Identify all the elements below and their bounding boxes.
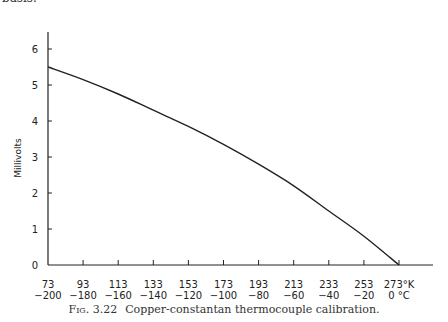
svg-text:0 °C: 0 °C xyxy=(388,290,410,300)
svg-text:133: 133 xyxy=(144,279,163,290)
svg-text:−180: −180 xyxy=(69,290,96,300)
svg-text:−60: −60 xyxy=(283,290,304,300)
y-axis-label: Millivolts xyxy=(13,138,23,178)
y-axis-ticks: 0123456 xyxy=(32,44,52,271)
svg-text:−40: −40 xyxy=(318,290,339,300)
svg-text:213: 213 xyxy=(284,279,303,290)
svg-text:4: 4 xyxy=(32,116,38,127)
figure-label: Fig. 3.22 xyxy=(69,303,118,316)
svg-text:−100: −100 xyxy=(210,290,237,300)
calibration-chart: 0123456 73−20093−180113−160133−140153−12… xyxy=(0,0,448,300)
svg-text:6: 6 xyxy=(32,44,38,55)
svg-text:113: 113 xyxy=(109,279,128,290)
svg-text:−140: −140 xyxy=(140,290,167,300)
axes xyxy=(48,32,433,265)
caption-text: Copper-constantan thermocouple calibrati… xyxy=(125,303,379,316)
svg-text:−80: −80 xyxy=(248,290,269,300)
svg-text:−120: −120 xyxy=(175,290,202,300)
svg-text:253: 253 xyxy=(354,279,373,290)
x-axis-ticks: 73−20093−180113−160133−140153−120173−100… xyxy=(34,260,414,300)
svg-text:1: 1 xyxy=(32,224,38,235)
svg-text:153: 153 xyxy=(179,279,198,290)
svg-text:−20: −20 xyxy=(353,290,374,300)
figure-caption: Fig. 3.22Copper-constantan thermocouple … xyxy=(0,303,448,316)
svg-text:0: 0 xyxy=(32,260,38,271)
svg-text:173: 173 xyxy=(214,279,233,290)
svg-text:273°K: 273°K xyxy=(384,279,415,290)
svg-text:233: 233 xyxy=(319,279,338,290)
svg-text:93: 93 xyxy=(77,279,90,290)
svg-text:193: 193 xyxy=(249,279,268,290)
svg-text:2: 2 xyxy=(32,188,38,199)
svg-text:−160: −160 xyxy=(104,290,131,300)
calibration-curve xyxy=(48,67,399,265)
svg-text:−200: −200 xyxy=(34,290,61,300)
svg-text:3: 3 xyxy=(32,152,38,163)
svg-text:5: 5 xyxy=(32,80,38,91)
svg-text:73: 73 xyxy=(42,279,55,290)
